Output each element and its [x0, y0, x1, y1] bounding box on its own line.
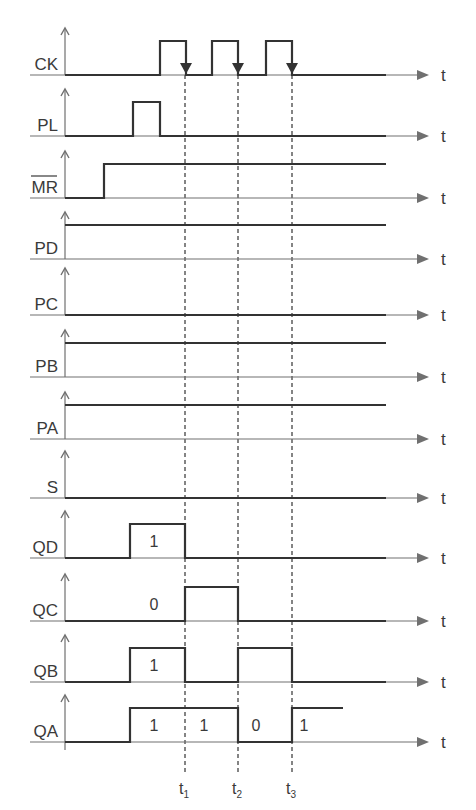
time-axis-arrow-icon: [417, 493, 429, 503]
time-marker-label-2: t2: [232, 780, 242, 800]
time-axis-label: t: [441, 250, 446, 269]
waveform: [65, 164, 386, 198]
bit-value-label: 1: [150, 657, 159, 674]
time-axis-arrow-icon: [417, 193, 429, 203]
time-axis-label: t: [441, 368, 446, 387]
time-axis-label: t: [441, 189, 446, 208]
time-axis-label: t: [441, 66, 446, 85]
time-axis-arrow-icon: [417, 131, 429, 141]
signal-label: CK: [34, 55, 58, 74]
signal-label: PC: [34, 295, 58, 314]
bit-value-label: 1: [150, 717, 159, 734]
bit-value-label: 0: [252, 717, 261, 734]
signal-label: QD: [33, 538, 59, 557]
waveform: [65, 648, 386, 682]
time-axis-arrow-icon: [417, 737, 429, 747]
time-marker-label-3: t3: [286, 780, 296, 800]
signal-s: tS: [30, 451, 446, 508]
signal-label: PD: [34, 239, 58, 258]
time-axis-label: t: [441, 612, 446, 631]
time-axis-label: t: [441, 673, 446, 692]
time-axis-arrow-icon: [417, 434, 429, 444]
time-axis-label: t: [441, 127, 446, 146]
timing-diagram-canvas: t1t2t3tCKtPLtMRtPDtPCtPBtPAtStQD1tQC0tQB…: [0, 0, 476, 810]
time-axis-label: t: [441, 733, 446, 752]
signal-label: PL: [37, 116, 58, 135]
signal-label: PB: [35, 357, 58, 376]
waveform: [65, 41, 386, 75]
falling-edge-arrow-icon: [232, 63, 244, 74]
timing-diagram: t1t2t3tCKtPLtMRtPDtPCtPBtPAtStQD1tQC0tQB…: [0, 0, 476, 810]
waveform: [65, 587, 386, 621]
signal-label: S: [47, 478, 58, 497]
time-axis-arrow-icon: [417, 310, 429, 320]
time-axis-label: t: [441, 489, 446, 508]
bit-value-label: 1: [200, 717, 209, 734]
time-axis-arrow-icon: [417, 372, 429, 382]
time-axis-arrow-icon: [417, 553, 429, 563]
time-axis-arrow-icon: [417, 70, 429, 80]
signal-label: QA: [33, 722, 58, 741]
time-axis-label: t: [441, 549, 446, 568]
time-axis-label: t: [441, 430, 446, 449]
time-axis-arrow-icon: [417, 254, 429, 264]
bit-value-label: 1: [300, 717, 309, 734]
time-axis-label: t: [441, 306, 446, 325]
waveform: [65, 524, 386, 558]
falling-edge-arrow-icon: [286, 63, 298, 74]
signal-label: QC: [33, 601, 59, 620]
bit-value-label: 0: [150, 596, 159, 613]
falling-edge-arrow-icon: [180, 63, 192, 74]
signal-label: QB: [33, 662, 58, 681]
bit-value-label: 1: [150, 533, 159, 550]
time-axis-arrow-icon: [417, 677, 429, 687]
time-axis-arrow-icon: [417, 616, 429, 626]
signal-label: MR: [32, 178, 58, 197]
time-marker-label-1: t1: [179, 780, 189, 800]
waveform: [65, 102, 386, 136]
signal-label: PA: [37, 419, 59, 438]
